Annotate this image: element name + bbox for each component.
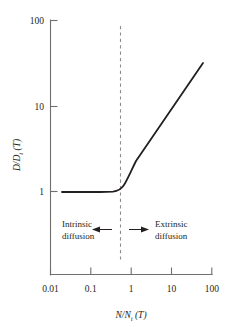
x-tick-label-0.01: 0.01 [42,284,59,294]
x-tick-label-0.1: 0.1 [85,284,97,294]
extrinsic-label-line1: Extrinsic [155,219,188,229]
y-axis-title-trail: (T) [12,139,23,153]
x-tick-label-100: 100 [205,284,220,294]
extrinsic-label-line2: diffusion [155,231,188,241]
y-tick-label-10: 10 [35,102,45,112]
intrinsic-label-line2: diffusion [62,231,95,241]
diffusion-log-log-plot: 100 10 1 0.01 0.1 1 10 100 N/Ni (T) D/Di… [0,0,232,327]
x-axis-title: N/Ni (T) [114,310,146,322]
intrinsic-label-line1: Intrinsic [62,219,92,229]
x-tick-label-1: 1 [129,284,134,294]
y-axis-title-lead: D/D [12,155,22,173]
diffusion-curve [62,63,203,192]
plot-svg: 100 10 1 0.01 0.1 1 10 100 N/Ni (T) D/Di… [0,0,232,327]
y-tick-label-100: 100 [30,16,45,26]
x-axis-title-trail: (T) [133,310,147,321]
right-arrow-head-icon [141,227,149,233]
y-axis-title: D/Di (T) [12,139,24,172]
x-tick-label-10: 10 [167,284,177,294]
y-tick-label-1: 1 [39,187,44,197]
x-axis-title-lead: N/N [114,310,131,320]
